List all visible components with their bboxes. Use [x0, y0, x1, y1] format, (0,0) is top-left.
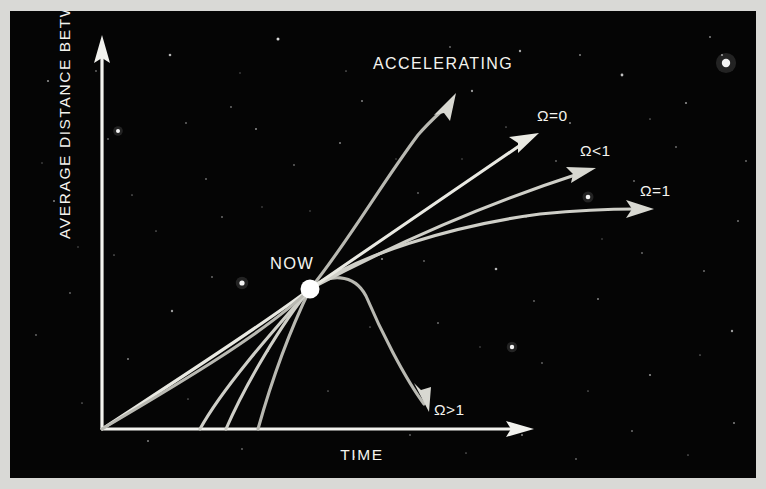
- omega-less-than-one-label: Ω<1: [580, 142, 610, 159]
- cosmology-expansion-figure: AVERAGE DISTANCE BETWEEN GALAXIES TIME N…: [0, 0, 766, 489]
- omega-zero-label: Ω=0: [537, 107, 567, 124]
- y-axis-label: AVERAGE DISTANCE BETWEEN GALAXIES: [56, 11, 73, 239]
- labels-group: AVERAGE DISTANCE BETWEEN GALAXIES TIME N…: [56, 11, 670, 463]
- now-marker-group: [301, 280, 320, 299]
- accelerating-label: ACCELERATING: [373, 55, 513, 72]
- curve-omega-equal-one: [226, 209, 636, 429]
- omega-greater-than-one-label: Ω>1: [434, 401, 464, 418]
- plot-area: AVERAGE DISTANCE BETWEEN GALAXIES TIME N…: [10, 11, 756, 478]
- axes-group: [94, 35, 534, 437]
- curves-group: [102, 93, 654, 429]
- now-label: NOW: [270, 254, 314, 272]
- curve-omega-greater-than-one: [258, 278, 424, 429]
- curve-omega-greater-than-one-arrow-icon: [414, 383, 431, 412]
- expansion-curves-chart: AVERAGE DISTANCE BETWEEN GALAXIES TIME N…: [10, 11, 756, 478]
- x-axis-label: TIME: [340, 446, 383, 463]
- now-point-marker: [301, 280, 320, 299]
- omega-equal-one-label: Ω=1: [640, 182, 670, 199]
- curve-omega-less-than-one: [200, 174, 578, 429]
